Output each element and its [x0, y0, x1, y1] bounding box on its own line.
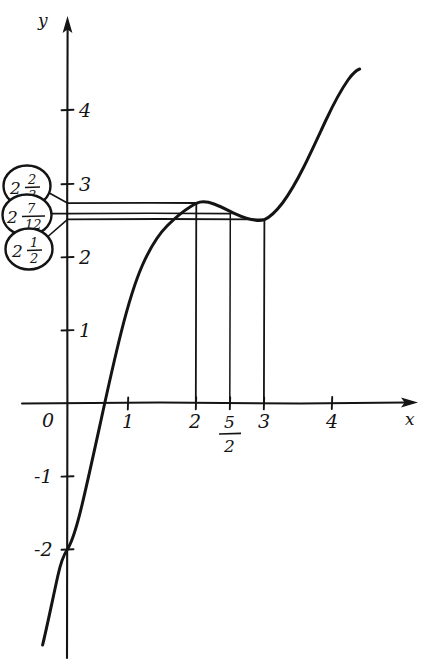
y-axis-label: y: [37, 10, 48, 30]
y-axis-tick-labels: 4 3 2 1 -1 -2: [34, 99, 91, 560]
x-axis-line: [22, 402, 406, 403]
y-tick-label-2: 2: [78, 246, 91, 268]
leader-line-top: [48, 192, 68, 203]
annotation-bottom-whole: 2: [11, 241, 23, 261]
plotted-curve: [43, 69, 360, 645]
y-tick-label-minus-1: -1: [34, 465, 53, 487]
guide-line-v-x-5-over-2: [230, 214, 231, 403]
y-tick-label-3: 3: [79, 173, 91, 195]
y-tick-label-minus-2: -2: [34, 538, 53, 560]
annotation-bottom: 2 1 2: [6, 229, 53, 270]
x-axis-label: x: [405, 409, 415, 429]
x-tick-label-5-over-2-denominator: 2: [223, 436, 235, 456]
annotation-middle-numerator: 7: [27, 201, 36, 216]
x-axis-tick-labels: 0 1 2 3 4 5 2: [42, 409, 338, 456]
y-tick-label-4: 4: [78, 99, 91, 121]
y-axis-line: [67, 30, 68, 658]
guide-line-v-x-2: [196, 203, 197, 403]
x-tick-label-4: 4: [325, 410, 338, 432]
x-tick-label-3: 3: [258, 410, 270, 432]
x-tick-label-1: 1: [122, 410, 134, 432]
origin-label: 0: [42, 409, 54, 431]
x-tick-label-5-over-2-numerator: 5: [224, 412, 235, 432]
x-tick-label-2: 2: [188, 410, 201, 432]
vertical-guide-lines: [196, 203, 265, 403]
annotation-middle-whole: 2: [6, 207, 18, 227]
guide-line-v-x-3: [264, 219, 265, 403]
x-tick-label-5-over-2: 5 2: [219, 412, 241, 456]
annotation-bottom-denominator: 2: [29, 251, 38, 266]
y-tick-label-1: 1: [79, 319, 91, 341]
x-tick-label-5-over-2-bar: [219, 433, 241, 434]
graph-figure: 4 3 2 1 -1 -2 0 1 2 3 4 5 2 y x: [0, 0, 427, 662]
annotation-bottom-numerator: 1: [30, 235, 38, 250]
annotation-top-numerator: 2: [27, 172, 36, 187]
horizontal-guide-lines: [67, 203, 265, 220]
